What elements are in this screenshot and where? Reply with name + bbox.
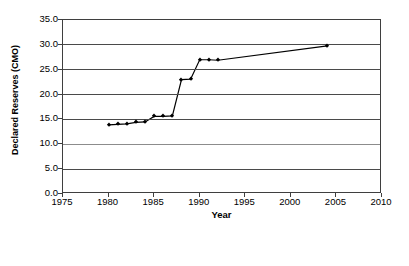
x-axis-tick-mark [62, 193, 63, 197]
x-axis-tick-label: 1995 [234, 196, 255, 207]
y-axis-tick-label: 10.0 [14, 138, 58, 148]
gridline-horizontal [63, 119, 380, 120]
plot-area [62, 19, 381, 193]
x-axis-tick-label: 1985 [143, 196, 164, 207]
y-axis-tick-mark [58, 19, 62, 20]
y-axis-tick-label: 35.0 [14, 14, 58, 24]
gridline-horizontal [63, 44, 380, 45]
y-axis-tick-label: 25.0 [14, 64, 58, 74]
y-axis-tick-label: 30.0 [14, 39, 58, 49]
gridline-horizontal [63, 169, 380, 170]
y-axis-tick-mark [58, 118, 62, 119]
x-axis-tick-label: 2005 [325, 196, 346, 207]
x-axis-tick-label: 1990 [188, 196, 209, 207]
x-axis-tick-mark [153, 193, 154, 197]
x-axis-tick-label: 2000 [279, 196, 300, 207]
x-axis-tick-labels: 19751980198519901995200020052010 [0, 196, 409, 210]
y-axis-tick-label: 20.0 [14, 89, 58, 99]
chart-figure: Declared Reserves (CMO) 0.05.010.015.020… [0, 0, 409, 266]
y-axis-tick-label: 5.0 [14, 163, 58, 173]
gridline-horizontal [63, 69, 380, 70]
x-axis-tick-label: 2010 [370, 196, 391, 207]
x-axis-tick-mark [335, 193, 336, 197]
x-axis-tick-mark [290, 193, 291, 197]
x-axis-tick-label: 1980 [97, 196, 118, 207]
y-axis-tick-labels: 0.05.010.015.020.025.030.035.0 [12, 0, 58, 210]
y-axis-tick-label: 15.0 [14, 113, 58, 123]
y-axis-tick-mark [58, 143, 62, 144]
x-axis-tick-label: 1975 [51, 196, 72, 207]
x-axis-title: Year [62, 209, 381, 220]
y-axis-tick-mark [58, 69, 62, 70]
y-axis-tick-mark [58, 44, 62, 45]
x-axis-tick-mark [108, 193, 109, 197]
x-axis-tick-mark [199, 193, 200, 197]
gridline-horizontal [63, 94, 380, 95]
y-axis-tick-mark [58, 94, 62, 95]
y-axis-tick-mark [58, 168, 62, 169]
x-axis-tick-mark [381, 193, 382, 197]
x-axis-tick-mark [244, 193, 245, 197]
gridline-horizontal [63, 144, 380, 145]
